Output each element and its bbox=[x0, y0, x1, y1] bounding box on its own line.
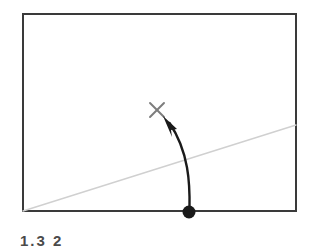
figure-canvas bbox=[0, 0, 318, 247]
figure-container: 1.3 2 bbox=[0, 0, 318, 247]
origin-dot[interactable] bbox=[183, 206, 196, 219]
